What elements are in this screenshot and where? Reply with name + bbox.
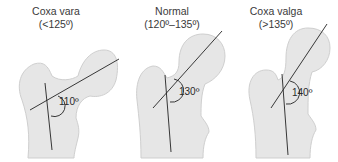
angle-label: 130º [179, 86, 199, 97]
panel-coxa-vara: Coxa vara (<125º) 110º [0, 0, 112, 162]
panel-normal: Normal (120º–135º) 130º [113, 0, 225, 162]
panel-coxa-valga: Coxa valga (>135º) 140º [226, 0, 338, 162]
angle-label: 140º [292, 87, 312, 98]
femur-illustration [226, 0, 338, 162]
angle-label: 110º [59, 96, 79, 107]
femur-illustration [113, 0, 233, 162]
femur-illustration [0, 0, 120, 162]
